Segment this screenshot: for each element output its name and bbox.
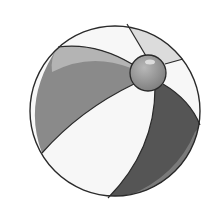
beach-ball-icon: [0, 0, 210, 205]
valve-icon: [130, 55, 166, 91]
beach-ball-illustration: [0, 0, 210, 205]
